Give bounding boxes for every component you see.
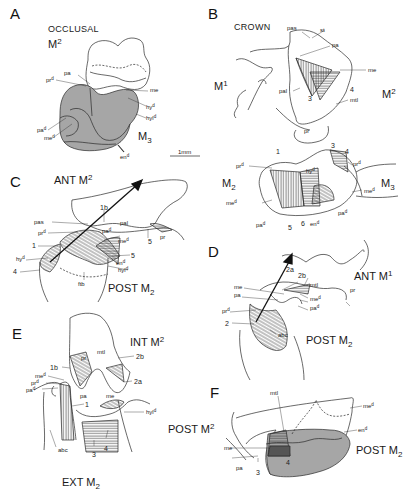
label-med: med <box>118 238 129 245</box>
number-6: 6 <box>301 220 305 228</box>
label-me: me <box>106 393 114 400</box>
label-pad: pad <box>310 305 319 312</box>
panel-e-letter: E <box>12 326 22 341</box>
label-abc: abc <box>278 332 288 339</box>
label-end: end <box>358 427 367 434</box>
panel-b-letter: B <box>208 6 218 21</box>
label-pad: pad <box>26 387 35 394</box>
label-end: end <box>116 260 125 267</box>
label-prd: prd <box>46 77 54 84</box>
label-me: me <box>224 445 232 452</box>
number-2b: 2b <box>298 272 306 280</box>
panel-d-letter: D <box>208 244 219 259</box>
label-pa: pa <box>332 42 339 49</box>
label-mtl: mtl <box>350 97 358 104</box>
label-end: end <box>120 154 129 161</box>
label-hyd: hyd <box>306 168 315 175</box>
panel-e-drawing <box>34 313 150 452</box>
number-3-upper: 3 <box>308 95 312 103</box>
number-4-upper: 4 <box>350 86 354 94</box>
panel-e-ext-title: EXT M2 <box>62 476 100 490</box>
label-prd: prd <box>222 308 230 315</box>
label-pa: pa <box>80 393 87 400</box>
panel-d-post-title: POST M2 <box>306 334 352 348</box>
label-pad: pad <box>102 228 111 235</box>
label-pa: pa <box>64 70 71 77</box>
label-pal: pal <box>279 88 287 95</box>
label-pad-left: pad <box>256 222 265 229</box>
panel-a-drawing <box>60 38 150 152</box>
label-pas: pas <box>287 25 297 32</box>
label-prd-left: prd <box>236 163 244 170</box>
number-1b: 1b <box>50 364 58 372</box>
label-me: me <box>150 87 158 94</box>
number-3: 3 <box>92 451 96 459</box>
number-1: 1 <box>276 148 280 156</box>
label-med: med <box>44 135 55 142</box>
panel-d-drawing <box>240 240 369 380</box>
number-5a: 5 <box>148 238 152 246</box>
label-pad-right: pad <box>338 210 347 217</box>
label-ftb: ftb <box>78 281 85 288</box>
panel-b-m2-lower: M2 <box>222 177 236 191</box>
panel-c-ant-title: ANT M2 <box>54 174 92 188</box>
label-me: me <box>368 67 376 74</box>
number-1b: 1b <box>100 204 108 212</box>
panel-b-m2-upper: M2 <box>382 88 396 102</box>
label-pr: pr <box>350 287 355 294</box>
scale-bar-label: 1mm <box>178 149 191 156</box>
label-pas: pas <box>34 219 44 226</box>
label-st: st <box>320 27 325 34</box>
label-prd: prd <box>38 230 46 237</box>
label-hyld: hyld <box>118 267 128 274</box>
label-mtl: mtl <box>310 282 318 289</box>
panel-c-letter: C <box>10 174 21 189</box>
number-2b: 2b <box>136 353 144 361</box>
label-hyd: hyd <box>146 104 155 111</box>
label-pr: pr <box>160 234 165 241</box>
panel-f-letter: F <box>210 385 219 400</box>
number-4-lower: 4 <box>345 148 349 156</box>
number-2a: 2a <box>134 378 142 386</box>
number-1: 1 <box>32 242 36 250</box>
number-2a: 2a <box>286 266 294 274</box>
label-pa: pa <box>234 292 241 299</box>
label-pr: pr <box>304 128 309 135</box>
panel-c-post-title: POST M2 <box>108 282 154 296</box>
number-3: 3 <box>256 469 260 477</box>
number-1: 1 <box>85 401 89 409</box>
panel-d-leaders <box>230 278 350 334</box>
panel-f-post-lower-title: POST M2 <box>356 444 402 458</box>
panel-f-post-upper-title: POST M2 <box>168 423 214 437</box>
number-4: 4 <box>13 268 17 276</box>
label-abc: abc <box>58 447 68 454</box>
number-4: 4 <box>286 459 290 467</box>
number-5: 5 <box>288 224 292 232</box>
label-pr: pr <box>81 355 86 362</box>
label-hyld: hyld <box>146 115 156 122</box>
panel-a-upper-tooth: M2 <box>48 38 62 52</box>
label-mtl: mtl <box>270 390 278 397</box>
number-3-lower: 3 <box>331 142 335 150</box>
panel-a-lower-tooth: M3 <box>138 130 152 144</box>
label-mtl: mtl <box>97 349 105 356</box>
panel-b-view-title: CROWN <box>234 22 271 32</box>
label-pal: pal <box>120 220 128 227</box>
label-prd-right: prd <box>353 161 361 168</box>
number-4: 4 <box>104 445 108 453</box>
label-pa: pa <box>236 465 243 472</box>
label-hyld: hyld <box>146 409 156 416</box>
label-end: end <box>310 221 319 228</box>
panel-a-view-title: OCCLUSAL <box>48 24 99 34</box>
panel-d-ant-title: ANT M1 <box>354 270 392 284</box>
panel-b-m3: M3 <box>381 177 395 191</box>
number-5b: 5 <box>131 252 135 260</box>
panel-e-int-title: INT M2 <box>130 336 164 350</box>
label-med: med <box>363 403 374 410</box>
panel-a-letter: A <box>10 6 20 21</box>
label-med: med <box>310 296 321 303</box>
label-med-right: med <box>364 188 375 195</box>
figure-drawings <box>0 0 409 491</box>
label-me: me <box>234 284 242 291</box>
label-hyd: hyd <box>16 256 25 263</box>
